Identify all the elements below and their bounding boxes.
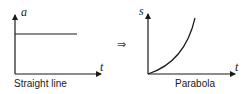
left-graph-caption: Straight line bbox=[14, 79, 67, 89]
right-graph-caption: Parabola bbox=[175, 79, 215, 89]
left-y-axis-label: a bbox=[21, 6, 27, 18]
implies-arrow-icon: ⇒ bbox=[117, 38, 126, 51]
right-y-axis-label: s bbox=[139, 5, 144, 17]
left-graph bbox=[15, 15, 101, 74]
left-x-axis-label: t bbox=[100, 61, 103, 73]
right-x-axis-label: t bbox=[235, 61, 238, 73]
parabola-curve bbox=[148, 18, 195, 74]
right-graph bbox=[148, 14, 235, 74]
